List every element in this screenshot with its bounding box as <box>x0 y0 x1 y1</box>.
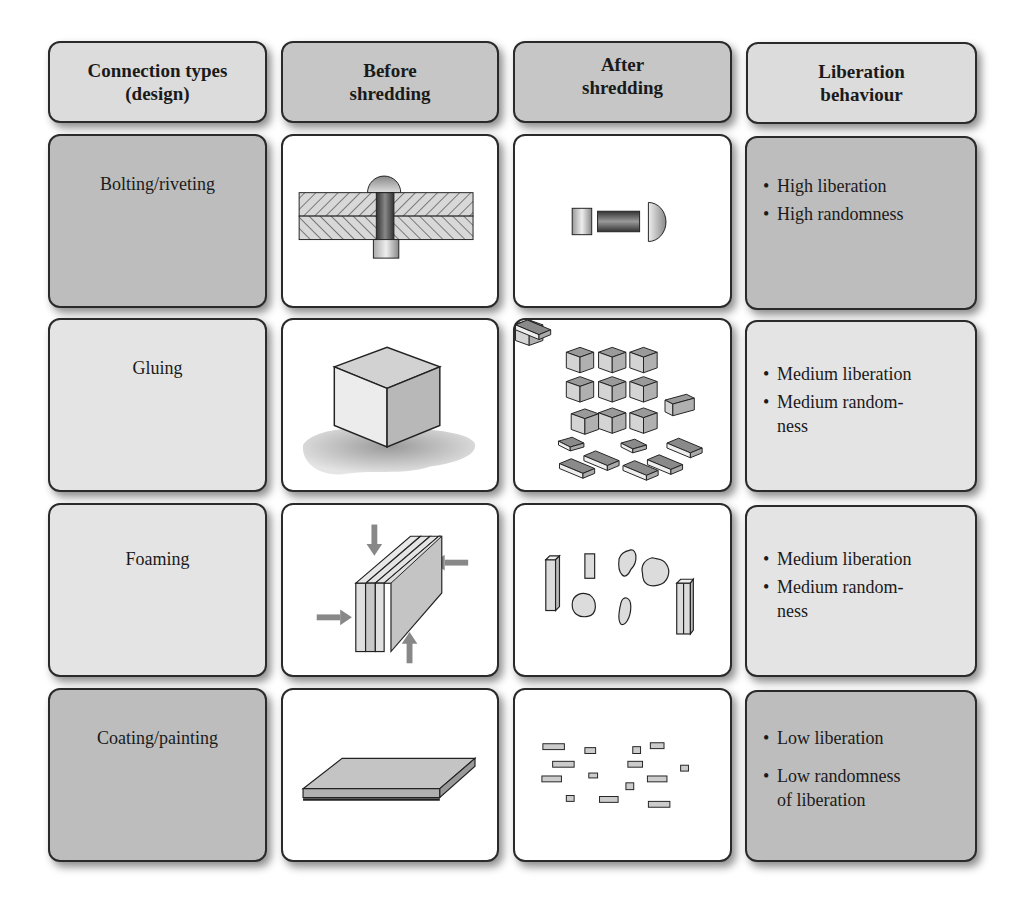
row-gluing-label-cell: Gluing <box>48 318 267 492</box>
separated-rivet-parts-icon <box>515 136 730 306</box>
behaviour-list: Medium liberation Medium random- ness <box>763 362 965 438</box>
row-gluing-behaviour-cell: Medium liberation Medium random- ness <box>745 320 977 492</box>
row-coating-before-cell <box>281 688 499 862</box>
header-line: Connection types <box>88 59 228 82</box>
behaviour-item-continuation: of liberation <box>763 788 965 812</box>
foamed-layered-panel-icon <box>283 505 497 675</box>
connection-type-label: Bolting/riveting <box>100 174 215 194</box>
header-line: After <box>582 53 663 76</box>
connection-type-label: Foaming <box>125 549 189 569</box>
behaviour-list: Medium liberation Medium random- ness <box>763 547 965 623</box>
row-bolting-behaviour-cell: High liberation High randomness <box>745 136 977 310</box>
row-foaming-behaviour-cell: Medium liberation Medium random- ness <box>745 505 977 677</box>
header-connection-types: Connection types(design) <box>48 41 267 123</box>
behaviour-item: Medium random- <box>763 575 965 599</box>
row-foaming-after-cell <box>513 503 732 677</box>
small-cubes-fragments-icon <box>515 320 730 490</box>
header-line: Before <box>350 59 431 82</box>
irregular-fragments-icon <box>515 505 730 675</box>
row-gluing-before-cell <box>281 318 499 492</box>
header-before-shredding: Beforeshredding <box>281 41 499 123</box>
row-gluing-after-cell <box>513 318 732 492</box>
behaviour-item-continuation: ness <box>763 414 965 438</box>
behaviour-item: High randomness <box>763 202 965 226</box>
behaviour-item: High liberation <box>763 174 965 198</box>
behaviour-item: Low randomness <box>763 764 965 788</box>
header-line: shredding <box>582 76 663 99</box>
row-foaming-label-cell: Foaming <box>48 503 267 677</box>
glued-cube-icon <box>283 320 497 490</box>
row-coating-label-cell: Coating/painting <box>48 688 267 862</box>
behaviour-list: Low liberation Low randomness of liberat… <box>763 726 965 812</box>
fine-particles-icon <box>515 690 730 860</box>
behaviour-item-continuation: ness <box>763 599 965 623</box>
row-foaming-before-cell <box>281 503 499 677</box>
row-bolting-after-cell <box>513 134 732 308</box>
rivet-joint-cross-section-icon <box>283 136 497 306</box>
connection-type-label: Coating/painting <box>97 728 218 748</box>
behaviour-item: Medium random- <box>763 390 965 414</box>
header-line: shredding <box>350 82 431 105</box>
behaviour-item: Low liberation <box>763 726 965 750</box>
behaviour-item: Medium liberation <box>763 547 965 571</box>
row-coating-after-cell <box>513 688 732 862</box>
coated-plate-icon <box>283 690 497 860</box>
row-bolting-label-cell: Bolting/riveting <box>48 134 267 308</box>
header-line: behaviour <box>818 83 905 106</box>
row-bolting-before-cell <box>281 134 499 308</box>
row-coating-behaviour-cell: Low liberation Low randomness of liberat… <box>745 690 977 862</box>
behaviour-list: High liberation High randomness <box>763 174 965 226</box>
header-liberation-behaviour: Liberationbehaviour <box>746 42 977 124</box>
header-line: (design) <box>88 82 228 105</box>
behaviour-item: Medium liberation <box>763 362 965 386</box>
header-after-shredding: Aftershredding <box>513 41 732 123</box>
header-line: Liberation <box>818 60 905 83</box>
connection-type-label: Gluing <box>132 358 182 378</box>
